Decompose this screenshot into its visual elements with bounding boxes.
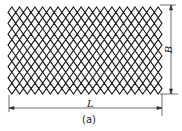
width-label: B — [163, 46, 174, 53]
expanded-metal-mesh — [8, 7, 162, 94]
figure-caption: (a) — [82, 114, 96, 125]
mesh-strands — [8, 7, 162, 94]
arrowhead-left — [9, 107, 14, 110]
arrowhead-down — [170, 89, 173, 94]
dimension-l — [9, 94, 162, 116]
length-label: L — [87, 98, 94, 109]
mesh-diagram — [0, 0, 182, 131]
arrowhead-up — [170, 5, 173, 10]
arrowhead-right — [157, 107, 162, 110]
